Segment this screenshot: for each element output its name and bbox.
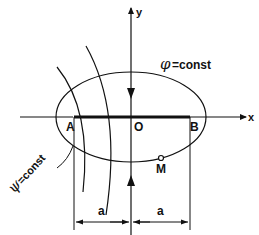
psi-const-text: =const — [15, 152, 48, 187]
x-axis-label: x — [248, 111, 255, 123]
dimension-a-left: a — [98, 204, 105, 218]
phi-symbol: φ — [160, 55, 171, 73]
y-axis-label: y — [136, 6, 143, 18]
origin-label: O — [134, 120, 143, 134]
point-m-label: M — [156, 162, 166, 176]
hyperbola-outer — [86, 46, 111, 215]
elliptic-coordinates-diagram: x y A O B M φ =const ψ =const a a — [0, 0, 259, 235]
dimension-a-right: a — [157, 204, 164, 218]
phi-const-text: =const — [172, 58, 211, 72]
point-b-label: B — [190, 120, 199, 134]
point-m-marker — [159, 156, 164, 161]
up-arrow-icon — [127, 175, 135, 186]
down-arrow-icon — [127, 88, 135, 99]
dimension-lines — [74, 117, 190, 230]
psi-leader-line — [57, 146, 73, 168]
